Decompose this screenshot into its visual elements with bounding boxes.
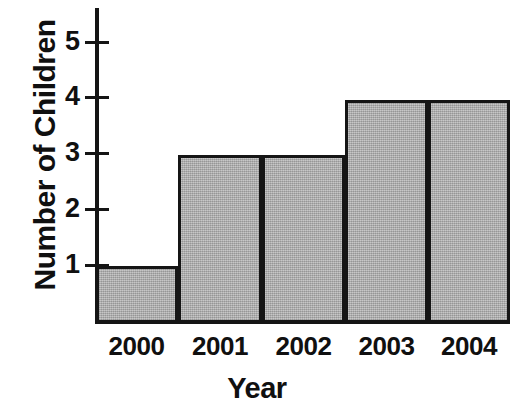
bar-2001 (178, 155, 262, 324)
bar-2002 (262, 155, 345, 324)
bar-2004 (428, 100, 510, 324)
y-axis-line (95, 8, 99, 324)
x-tick-label-2001: 2001 (178, 331, 262, 362)
y-tick-label-2: 2 (44, 195, 80, 222)
y-tick-mark-2 (85, 208, 109, 211)
y-tick-mark-5 (85, 41, 109, 44)
x-tick-label-2002: 2002 (262, 331, 345, 362)
plot-area: 5 4 3 2 1 2000 2001 2002 2003 2004 (0, 0, 514, 413)
x-tick-label-2003: 2003 (345, 331, 428, 362)
y-tick-label-3: 3 (44, 139, 80, 166)
y-tick-mark-4 (85, 96, 109, 99)
x-tick-label-2004: 2004 (428, 331, 510, 362)
y-tick-label-4: 4 (44, 83, 80, 110)
y-tick-mark-3 (85, 152, 109, 155)
x-axis-line (95, 320, 510, 324)
y-tick-label-1: 1 (44, 251, 80, 278)
bar-2000 (95, 266, 178, 324)
y-tick-mark-1 (85, 264, 109, 267)
y-tick-label-5: 5 (44, 28, 80, 55)
x-tick-label-2000: 2000 (95, 331, 178, 362)
bar-2003 (345, 100, 428, 324)
bar-chart: Number of Children Year 5 4 3 2 (0, 0, 514, 413)
